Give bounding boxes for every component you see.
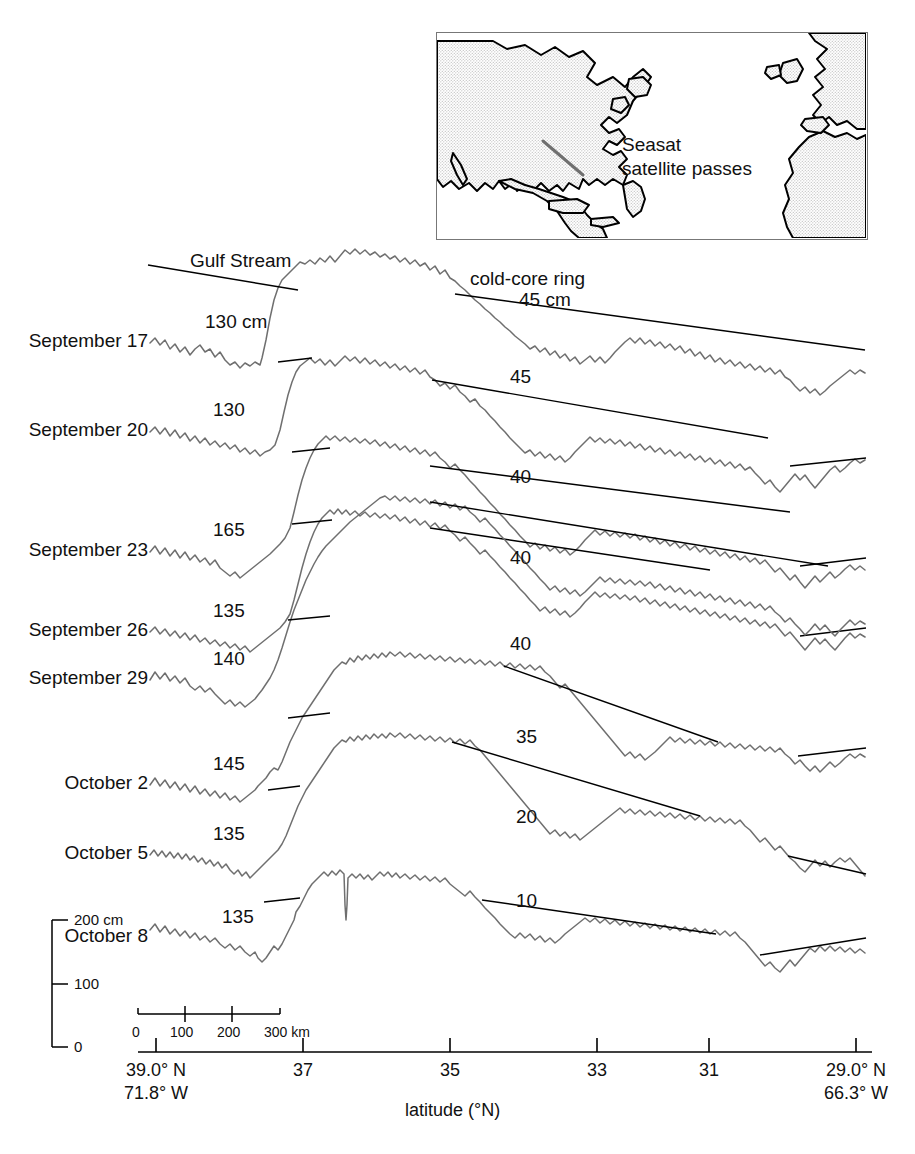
ring-amplitude-september-20: 45 [510,366,531,388]
gulf-stream-tangent-october-2 [288,713,330,718]
gulf-stream-amplitude-september-20: 130 [213,399,245,421]
ring-amplitude-september-29: 40 [510,633,531,655]
x-tick-label-37: 37 [263,1060,343,1081]
ring-amplitude-september-23: 40 [510,466,531,488]
gulf-stream-amplitude-september-26: 135 [213,600,245,622]
x-tick-label-33: 33 [557,1060,637,1081]
distance-scale-label-0: 0 [132,1024,140,1040]
series-label-september-23: September 23 [0,539,148,561]
seasat-profile-figure: Seasat satellite passes [0,0,915,1154]
y-scale-label-0: 0 [74,1038,82,1055]
gulf-stream-tangent-september-26 [292,520,332,524]
x-tick-label-31: 31 [669,1060,749,1081]
trace-september-29 [150,496,865,707]
ring-tangent-october-5 [452,742,700,816]
gulf-stream-tangent-september-23 [292,448,330,452]
distance-scale-label-100: 100 [170,1024,193,1040]
trace-september-23 [150,436,865,588]
trace-october-2 [150,652,865,802]
cold-core-ring-title-value: 45 cm [519,289,571,311]
ring-tangent-september-26 [430,528,710,570]
ring-amplitude-october-5: 20 [516,806,537,828]
series-label-october-5: October 5 [0,842,148,864]
profile-plot-svg [0,0,915,1154]
series-label-september-26: September 26 [0,619,148,641]
series-label-october-8: October 8 [0,925,148,947]
trace-september-26 [150,509,865,652]
series-label-september-17: September 17 [0,330,148,352]
ring-tangent-september-23 [430,466,790,512]
series-label-september-29: September 29 [0,667,148,689]
y-scale-label-100: 100 [74,975,99,992]
ring-tangent-right-october-2 [798,748,866,756]
gulf-stream-amplitude-october-5: 135 [213,823,245,845]
gulf-stream-amplitude-october-2: 145 [213,753,245,775]
trace-october-5 [150,733,865,878]
ring-tangent-right-october-8 [760,938,866,955]
distance-scale-label-300km: 300 km [264,1024,310,1040]
gulf-stream-tangent-october-5 [268,786,300,790]
ring-amplitude-september-26: 40 [510,547,531,569]
gulf-stream-amplitude-october-8: 135 [222,906,254,928]
x-tick-sublabel-66w: 66.3° W [796,1083,915,1104]
gulf-stream-title: Gulf Stream [190,250,291,272]
gulf-stream-amplitude-september-23: 165 [213,519,245,541]
distance-scale-label-200: 200 [217,1024,240,1040]
gulf-stream-amplitude-september-29: 140 [213,648,245,670]
trace-september-20 [150,356,865,492]
distance-scale-bar [138,1006,280,1022]
ring-tangent-september-20 [432,380,768,438]
trace-october-8 [150,870,865,972]
ring-tangent-right-october-5 [788,856,866,874]
gulf-stream-amplitude-september-17: 130 cm [205,311,267,333]
gulf-stream-tangent-september-29 [288,616,330,620]
ring-amplitude-october-8: 10 [516,890,537,912]
x-tick-sublabel-71w: 71.8° W [96,1083,216,1104]
x-tick-label-35: 35 [410,1060,490,1081]
ring-tangent-right-september-23 [800,558,866,566]
x-tick-label-29: 29.0° N [796,1060,915,1081]
y-scale-label-200: 200 cm [74,911,123,928]
ring-amplitude-october-2: 35 [516,726,537,748]
gulf-stream-tangent-october-8 [264,898,300,902]
x-tick-label-39: 39.0° N [96,1060,216,1081]
cold-core-ring-title: cold-core ring [470,268,585,290]
series-label-september-20: September 20 [0,419,148,441]
series-label-october-2: October 2 [0,772,148,794]
x-axis-title: latitude (°N) [405,1100,500,1121]
ring-tangent-right-september-20 [790,458,866,466]
